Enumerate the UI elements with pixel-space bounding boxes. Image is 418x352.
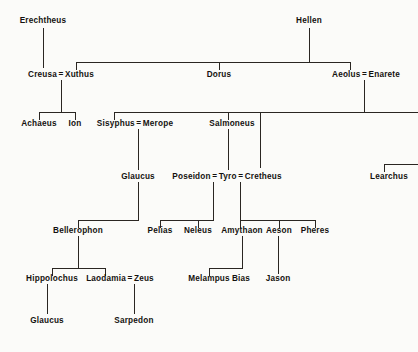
- node-melampus: Melampus: [188, 274, 230, 284]
- connector-hippolochus-glaucus: [47, 284, 48, 314]
- label-achaeus: Achaeus: [21, 119, 57, 128]
- connector-drop-aeolus: [350, 62, 351, 70]
- label-learchus: Learchus: [370, 172, 408, 181]
- node-sisyphus-merope-union: Sisyphus=Merope: [97, 119, 173, 129]
- node-erechtheus: Erechtheus: [20, 16, 67, 26]
- connector-poseidon-children-bar: [160, 220, 214, 221]
- connector-creusa-children-bar: [39, 112, 76, 113]
- label-pheres: Pheres: [301, 226, 330, 235]
- connector-sisyphus-glaucus: [138, 129, 139, 170]
- label-poseidon: Poseidon: [172, 172, 210, 181]
- label-aeson: Aeson: [266, 226, 292, 235]
- label-salmoneus: Salmoneus: [209, 119, 254, 128]
- node-jason: Jason: [266, 274, 291, 284]
- connector-aeolus-children-stem: [364, 80, 365, 113]
- union-symbol: =: [57, 70, 65, 79]
- node-pelias: Pelias: [148, 226, 173, 236]
- label-pelias: Pelias: [148, 226, 173, 235]
- label-glaucus-mid: Glaucus: [121, 172, 155, 181]
- label-amythaon: Amythaon: [221, 226, 263, 235]
- node-hippolochus: Hippolochus: [26, 274, 78, 284]
- connector-drop-learchus: [384, 164, 385, 172]
- connector-bellerophon-children-bar: [52, 268, 106, 269]
- node-neleus: Neleus: [184, 226, 212, 236]
- label-enarete: Enarete: [369, 70, 400, 79]
- node-aeolus-enarete-union: Aeolus=Enarete: [332, 70, 400, 80]
- node-bellerophon: Bellerophon: [53, 226, 103, 236]
- node-poseidon-tyro-cretheus-union: Poseidon=Tyro=Cretheus: [172, 172, 281, 182]
- connector-aeson-jason: [278, 236, 279, 274]
- connector-glaucus-bellerophon-stem: [138, 182, 139, 220]
- connector-poseidon-tyro-stem: [213, 182, 214, 220]
- label-dorus: Dorus: [207, 70, 232, 79]
- connector-amythaon-children-bar: [209, 268, 243, 269]
- connector-erechtheus-creusa: [43, 28, 44, 68]
- connector-amythaon-children-stem: [242, 236, 243, 268]
- label-hellen: Hellen: [296, 16, 322, 25]
- connector-drop-athamas-branch: [260, 112, 261, 168]
- label-bias: Bias: [232, 274, 250, 283]
- connector-laodamia-sarpedon: [134, 284, 135, 314]
- connector-aeolid-children-bar: [114, 112, 418, 113]
- connector-drop-dorus: [219, 62, 220, 70]
- node-dorus: Dorus: [207, 70, 232, 80]
- node-sarpedon: Sarpedon: [114, 316, 153, 326]
- label-jason: Jason: [266, 274, 291, 283]
- label-sarpedon: Sarpedon: [114, 316, 153, 325]
- node-achaeus: Achaeus: [21, 119, 57, 129]
- connector-drop-xuthus: [76, 62, 77, 70]
- label-erechtheus: Erechtheus: [20, 16, 67, 25]
- union-symbol: =: [135, 119, 143, 128]
- label-glaucus-low: Glaucus: [30, 316, 64, 325]
- label-creusa: Creusa: [28, 70, 57, 79]
- label-bellerophon: Bellerophon: [53, 226, 103, 235]
- connector-cretheus-stem: [240, 182, 241, 220]
- genealogy-chart: Erechtheus Hellen Creusa=Xuthus Dorus Ae…: [0, 0, 418, 352]
- label-ion: Ion: [69, 119, 82, 128]
- node-learchus: Learchus: [370, 172, 408, 182]
- node-glaucus-low: Glaucus: [30, 316, 64, 326]
- node-ion: Ion: [69, 119, 82, 129]
- node-aeson: Aeson: [266, 226, 292, 236]
- label-xuthus: Xuthus: [65, 70, 94, 79]
- connector-salmoneus-tyro: [228, 129, 229, 170]
- connector-hellen-stem: [309, 28, 310, 62]
- label-zeus: Zeus: [134, 274, 154, 283]
- connector-hellen-children-bar: [76, 62, 351, 63]
- node-laodamia-zeus-union: Laodamia=Zeus: [86, 274, 154, 284]
- connector-bellerophon-children-stem: [78, 236, 79, 268]
- node-amythaon: Amythaon: [221, 226, 263, 236]
- node-pheres: Pheres: [301, 226, 330, 236]
- connector-creusa-children-stem: [61, 80, 62, 112]
- label-melampus: Melampus: [188, 274, 230, 283]
- label-neleus: Neleus: [184, 226, 212, 235]
- label-merope: Merope: [143, 119, 173, 128]
- node-salmoneus: Salmoneus: [209, 119, 254, 129]
- node-hellen: Hellen: [296, 16, 322, 26]
- label-cretheus: Cretheus: [245, 172, 282, 181]
- label-tyro: Tyro: [219, 172, 237, 181]
- connector-learchus-bar: [384, 164, 418, 165]
- node-bias: Bias: [232, 274, 250, 284]
- connector-cretheus-children-bar: [240, 220, 316, 221]
- node-creusa-xuthus-union: Creusa=Xuthus: [28, 70, 94, 80]
- label-aeolus: Aeolus: [332, 70, 361, 79]
- node-glaucus-mid: Glaucus: [121, 172, 155, 182]
- union-symbol: =: [126, 274, 134, 283]
- label-sisyphus: Sisyphus: [97, 119, 135, 128]
- connector-glaucus-children-bar: [78, 220, 139, 221]
- label-hippolochus: Hippolochus: [26, 274, 78, 283]
- label-laodamia: Laodamia: [86, 274, 126, 283]
